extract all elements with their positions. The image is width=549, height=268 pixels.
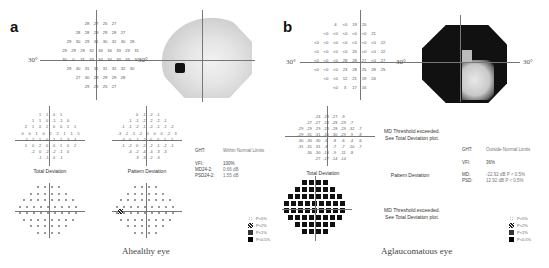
grid-value: 28 (74, 30, 83, 36)
grid-value: 0 (151, 131, 158, 137)
grid-value: -3 (162, 149, 169, 155)
p05-square (323, 215, 328, 220)
grid-value: 29 (101, 75, 110, 81)
grid-value: -14 (340, 156, 347, 162)
legend-label: P<1% (256, 230, 267, 235)
grid-value: 2 (51, 137, 58, 143)
grid-value: <0 (312, 40, 321, 46)
degree-label-right: 30° (523, 58, 533, 66)
normal-dot (123, 206, 125, 208)
grid-value: 31 (92, 66, 101, 72)
grid-value: 29 (110, 75, 119, 81)
normal-dot (30, 219, 32, 221)
normal-dot (155, 219, 157, 221)
p05-square (291, 201, 296, 206)
grid-value: 19 (350, 22, 359, 28)
normal-dot (30, 199, 32, 201)
normal-dot (137, 212, 139, 214)
grid-value: 33 (87, 57, 96, 63)
legend-label: P<5% (517, 216, 528, 221)
legend-symbol-dense-icon (509, 230, 514, 235)
normal-dot (162, 219, 164, 221)
grid-value: 29 (65, 39, 74, 45)
normal-dot (141, 225, 143, 227)
grid-value: 0 (127, 137, 134, 143)
p05-square (323, 194, 328, 199)
grid-value: -2 (123, 131, 130, 137)
grid-value: -2 (141, 137, 148, 143)
normal-dot (51, 199, 53, 201)
grid-value: 0 (65, 149, 72, 155)
grid-value: 28 (128, 39, 137, 45)
grid-value: -3 (155, 149, 162, 155)
grid-value: -1 (120, 143, 127, 149)
p05-square (309, 180, 314, 185)
grid-value: -2 (162, 143, 169, 149)
grid-value: -1 (58, 155, 65, 161)
grid-value: 1 (37, 137, 44, 143)
p05-square (330, 187, 335, 192)
horizontal-axis (150, 60, 255, 61)
vfi-label-b: VFI: (462, 160, 470, 165)
grid-value: -2 (134, 124, 141, 130)
grid-value: <0 (331, 67, 340, 73)
normal-dot (155, 199, 157, 201)
normal-dot (120, 219, 122, 221)
grid-value: 27 (360, 58, 369, 64)
normal-dot (51, 232, 53, 234)
normal-dot (144, 206, 146, 208)
normal-dot (130, 212, 132, 214)
grid-value: 30 (60, 57, 69, 63)
p05-square (337, 215, 342, 220)
grid-value: 0 (148, 137, 155, 143)
grid-value: 25 (379, 67, 388, 73)
normal-dot (47, 206, 49, 208)
grayscale-plot-b: 30° 30° (410, 10, 545, 102)
preserved-field-region (462, 60, 494, 100)
p05-square (333, 201, 338, 206)
legend-symbol-checker-icon (509, 223, 514, 228)
md-warning-bottom-line2: See Total Deviation plot. (372, 214, 452, 220)
legend-label: P<1% (517, 230, 528, 235)
grid-value: 1 (58, 112, 65, 118)
grid-value: -1 (155, 124, 162, 130)
normal-dot (37, 193, 39, 195)
normal-dot (37, 232, 39, 234)
grid-value: 27 (92, 21, 101, 27)
grid-value: 30 (83, 75, 92, 81)
grid-value: <0 (322, 49, 331, 55)
grid-value: 1 (58, 143, 65, 149)
grid-value: 31 (101, 66, 110, 72)
caption-b: Aglaucomatous eye (381, 246, 452, 256)
grid-value: 0 (37, 149, 44, 155)
normal-dot (162, 225, 164, 227)
grid-value: -2 (30, 149, 37, 155)
grid-value: 33 (114, 57, 123, 63)
pattern-deviation-plot-a: 0-1-2-1-1-1-2-2-2-1-1-1-2-1-2-1-1-2-3-2-… (112, 106, 182, 166)
normal-dot (141, 193, 143, 195)
grid-value: -1 (134, 137, 141, 143)
grid-value: 0 (155, 137, 162, 143)
grid-value: 32 (110, 39, 119, 45)
grid-value: -1 (155, 112, 162, 118)
normal-dot (134, 225, 136, 227)
legend-symbol-solid-icon (509, 237, 514, 242)
grid-value: -4 (120, 137, 127, 143)
grid-value: -27 (314, 156, 321, 162)
normal-dot (127, 193, 129, 195)
grid-value: 27 (74, 75, 83, 81)
grid-value: -2 (148, 124, 155, 130)
grid-value: <0 (312, 58, 321, 64)
p05-square (305, 201, 310, 206)
p05-square (302, 187, 307, 192)
legend-item: P<5% (509, 216, 528, 221)
psd-label-b: PSD: (462, 178, 473, 183)
p05-square (309, 229, 314, 234)
grid-value: 27 (119, 30, 128, 36)
normal-dot (137, 206, 139, 208)
normal-dot (30, 225, 32, 227)
normal-dot (37, 199, 39, 201)
normal-dot (37, 186, 39, 188)
p05-square (316, 229, 321, 234)
normal-dot (19, 212, 21, 214)
